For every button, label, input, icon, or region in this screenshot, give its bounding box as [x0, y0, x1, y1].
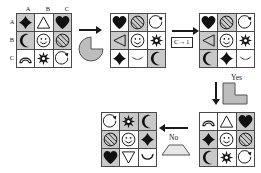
arrow-left-no	[160, 124, 188, 132]
branch-label-yes: Yes	[231, 73, 242, 82]
cell-6[interactable]	[148, 32, 165, 49]
cell-4[interactable]	[17, 32, 34, 49]
cell-3[interactable]	[148, 14, 165, 31]
l-block-shape	[222, 82, 248, 109]
cell-1[interactable]	[102, 113, 119, 130]
arrow-right-1	[79, 26, 101, 34]
circle-arrow-icon	[103, 114, 118, 129]
third-grid[interactable]	[199, 13, 255, 68]
cell-5[interactable]	[129, 32, 146, 49]
hatched-circle-icon	[238, 132, 253, 147]
sunburst-icon	[36, 51, 51, 66]
cell-8[interactable]	[129, 50, 146, 67]
circle-arrow-icon	[238, 15, 253, 30]
diagram-canvas: A B C A B C C→1 Yes No	[0, 0, 261, 173]
cell-9[interactable]	[139, 149, 156, 166]
cell-2[interactable]	[120, 113, 137, 130]
cell-5[interactable]	[35, 32, 52, 49]
cell-8[interactable]	[218, 149, 235, 166]
hatched-circle-icon	[55, 33, 70, 48]
curve-up-icon	[140, 150, 155, 165]
crescent-moon-icon	[149, 51, 164, 66]
row-label-a: A	[8, 19, 16, 26]
circle-arrow-icon	[149, 15, 164, 30]
cell-2[interactable]	[218, 113, 235, 130]
heart-icon	[55, 15, 70, 30]
cell-9[interactable]	[237, 149, 254, 166]
cell-2[interactable]	[35, 14, 52, 31]
cell-6[interactable]	[139, 131, 156, 148]
diamond-icon	[140, 132, 155, 147]
hatched-circle-icon	[219, 15, 234, 30]
heart-icon	[201, 15, 216, 30]
hatched-circle-icon	[130, 15, 145, 30]
smiley-face-icon	[36, 33, 51, 48]
arc-icon	[201, 114, 216, 129]
cell-1[interactable]	[17, 14, 34, 31]
cell-4[interactable]	[111, 32, 128, 49]
fifth-grid[interactable]	[101, 112, 157, 167]
diamond-icon	[219, 51, 234, 66]
cell-7[interactable]	[102, 149, 119, 166]
sunburst-icon	[121, 114, 136, 129]
cell-2[interactable]	[218, 14, 235, 31]
cell-6[interactable]	[237, 131, 254, 148]
cell-3[interactable]	[237, 113, 254, 130]
cell-8[interactable]	[35, 50, 52, 67]
crescent-moon-icon	[140, 114, 155, 129]
cell-4[interactable]	[102, 131, 119, 148]
cell-2[interactable]	[129, 14, 146, 31]
cell-7[interactable]	[200, 50, 217, 67]
cell-5[interactable]	[120, 131, 137, 148]
pacman-shape	[78, 36, 104, 66]
cell-7[interactable]	[111, 50, 128, 67]
cell-9[interactable]	[148, 50, 165, 67]
circle-arrow-icon	[55, 51, 70, 66]
arrow-down-yes	[212, 82, 220, 104]
col-label-b: B	[43, 6, 53, 13]
diamond-icon	[18, 15, 33, 30]
trapezoid-shape	[161, 143, 191, 161]
rule-box-c-to-1[interactable]: C→1	[171, 37, 193, 48]
sunburst-icon	[149, 33, 164, 48]
row-label-b: B	[8, 37, 16, 44]
cell-7[interactable]	[17, 50, 34, 67]
cell-8[interactable]	[218, 50, 235, 67]
second-grid[interactable]	[110, 13, 166, 68]
cell-1[interactable]	[200, 113, 217, 130]
heart-icon	[112, 15, 127, 30]
cell-7[interactable]	[200, 149, 217, 166]
cell-9[interactable]	[237, 50, 254, 67]
cell-9[interactable]	[54, 50, 71, 67]
cell-5[interactable]	[218, 32, 235, 49]
arrow-right-2	[172, 27, 198, 35]
cell-4[interactable]	[200, 131, 217, 148]
triangle-up-icon	[36, 15, 51, 30]
heart-icon	[238, 114, 253, 129]
crescent-down-icon	[238, 51, 253, 66]
sunburst-icon	[219, 150, 234, 165]
diamond-icon	[112, 51, 127, 66]
cell-3[interactable]	[237, 14, 254, 31]
fourth-grid[interactable]	[199, 112, 255, 167]
cell-8[interactable]	[120, 149, 137, 166]
cell-3[interactable]	[139, 113, 156, 130]
cell-3[interactable]	[54, 14, 71, 31]
crescent-moon-icon	[18, 33, 33, 48]
source-grid[interactable]	[16, 13, 72, 68]
smiley-face-icon	[219, 132, 234, 147]
col-label-a: A	[23, 6, 33, 13]
cell-6[interactable]	[237, 32, 254, 49]
triangle-left-icon	[201, 33, 216, 48]
cell-5[interactable]	[218, 131, 235, 148]
cell-1[interactable]	[111, 14, 128, 31]
crescent-down-icon	[130, 51, 145, 66]
diamond-icon	[201, 132, 216, 147]
row-label-c: C	[8, 55, 16, 62]
triangle-down-icon	[121, 150, 136, 165]
cell-1[interactable]	[200, 14, 217, 31]
cell-4[interactable]	[200, 32, 217, 49]
heart-icon	[103, 150, 118, 165]
cell-6[interactable]	[54, 32, 71, 49]
smiley-face-icon	[219, 33, 234, 48]
